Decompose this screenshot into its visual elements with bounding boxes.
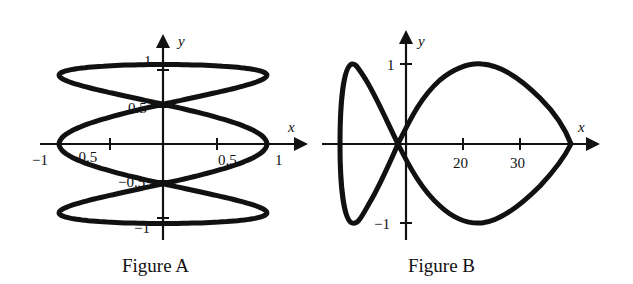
figure-b-tick-y-1: 1 [387,57,395,73]
figure-b-tick-y-m1: −1 [374,216,390,232]
figure-a-y-arrow-icon [156,34,170,48]
figure-b-y-label: y [416,33,425,49]
figure-b-x-label: x [577,119,585,135]
figure-a-caption: Figure A [122,255,189,276]
figure-a-x-label: x [287,119,295,135]
figure-a-tick-y-05: 0.5 [128,100,147,116]
figures-canvas: −1 −0.5 0.5 1 1 0.5 −0.5 −1 x y Figure A… [0,0,633,284]
figure-a-tick-y-m1: −1 [134,220,150,236]
figure-a: −1 −0.5 0.5 1 1 0.5 −0.5 −1 x y Figure A [32,33,308,276]
figure-b-tick-x-30: 30 [510,155,525,171]
figure-a-x-arrow-icon [294,137,308,151]
figure-a-y-label: y [176,33,185,49]
figure-b-caption: Figure B [408,255,475,276]
figure-a-tick-y-m05: −0.5 [118,174,145,190]
figure-b-tick-x-20: 20 [453,155,468,171]
figure-a-tick-x-m1: −1 [32,152,48,168]
figure-a-tick-y-1: 1 [144,53,152,69]
figure-a-tick-x-05: 0.5 [218,152,237,168]
figure-b-y-arrow-icon [399,30,413,44]
figure-b: 20 30 1 −1 x y Figure B [322,30,600,276]
figure-b-x-arrow-icon [586,137,600,151]
figure-a-tick-x-m05: −0.5 [70,149,97,165]
figure-a-tick-x-1: 1 [275,152,283,168]
